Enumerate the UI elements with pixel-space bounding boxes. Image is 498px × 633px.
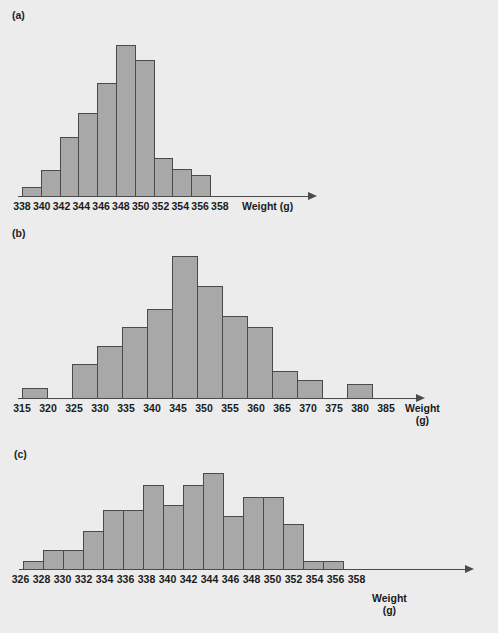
bar-a-348-350: [116, 45, 136, 196]
bar-b-365-370: [272, 371, 298, 398]
panel-c-axis-title-line1: Weight: [372, 592, 407, 604]
tick-c-338: 338: [136, 573, 157, 585]
bar-b-345-350: [172, 256, 198, 398]
tick-b-315: 315: [9, 402, 35, 414]
tick-a-356: 356: [190, 200, 210, 212]
bar-b-350-355: [197, 286, 223, 398]
bar-c-332-334: [83, 531, 104, 569]
tick-a-348: 348: [111, 200, 131, 212]
tick-c-346: 346: [220, 573, 241, 585]
tick-b-345: 345: [165, 402, 191, 414]
bar-b-340-345: [147, 309, 173, 398]
panel-c-axis-line: [19, 569, 467, 570]
tick-c-328: 328: [31, 573, 52, 585]
panel-b-axis-title-line2: (g): [405, 414, 440, 426]
tick-c-354: 354: [304, 573, 325, 585]
tick-b-330: 330: [87, 402, 113, 414]
tick-c-352: 352: [283, 573, 304, 585]
bar-c-338-340: [143, 485, 164, 569]
bar-c-356-358: [323, 561, 344, 569]
bar-c-340-342: [163, 505, 184, 569]
tick-a-338: 338: [12, 200, 32, 212]
panel-c: (c) 326328330332334336338340342344346348…: [0, 440, 498, 633]
bar-c-326-328: [23, 561, 44, 569]
bar-a-352-354: [154, 158, 174, 196]
panel-c-tick-labels: 3263283303323343363383403423443463483503…: [10, 573, 367, 585]
panel-b-axis-title: Weight (g): [405, 402, 440, 426]
panel-b-label: (b): [12, 227, 25, 239]
tick-c-344: 344: [199, 573, 220, 585]
tick-a-352: 352: [151, 200, 171, 212]
tick-b-355: 355: [217, 402, 243, 414]
panel-b-axis-title-line1: Weight: [405, 402, 440, 414]
tick-b-360: 360: [243, 402, 269, 414]
bar-c-336-338: [123, 510, 144, 569]
bar-b-370-375: [297, 380, 323, 398]
tick-c-326: 326: [10, 573, 31, 585]
bar-c-348-350: [243, 497, 264, 569]
tick-b-340: 340: [139, 402, 165, 414]
tick-c-340: 340: [157, 573, 178, 585]
tick-b-380: 380: [347, 402, 373, 414]
panel-a-tick-labels: 338340342344346348350352354356358: [12, 200, 230, 212]
bar-b-325-330: [72, 364, 98, 398]
bar-c-330-332: [63, 550, 84, 569]
tick-b-365: 365: [269, 402, 295, 414]
tick-c-348: 348: [241, 573, 262, 585]
tick-c-356: 356: [325, 573, 346, 585]
tick-c-342: 342: [178, 573, 199, 585]
panel-b: (b) 315320325330335340345350355360365370…: [0, 222, 498, 440]
panel-a-axis-arrow: [308, 192, 317, 200]
panel-c-axis-title: Weight (g): [372, 592, 407, 616]
bar-a-356-358: [191, 175, 211, 196]
panel-a: (a) 338340342344346348350352354356358 We…: [0, 0, 498, 222]
panel-a-axis-title-line1: Weight (g): [242, 200, 293, 212]
panel-b-bars: [22, 242, 386, 398]
tick-a-350: 350: [131, 200, 151, 212]
tick-c-350: 350: [262, 573, 283, 585]
tick-c-334: 334: [94, 573, 115, 585]
tick-a-354: 354: [170, 200, 190, 212]
tick-a-342: 342: [52, 200, 72, 212]
tick-a-346: 346: [91, 200, 111, 212]
bar-b-355-360: [222, 316, 248, 398]
panel-b-tick-labels: 3153203253303353403453503553603653703753…: [9, 402, 399, 414]
tick-a-340: 340: [32, 200, 52, 212]
bar-a-342-344: [60, 137, 80, 196]
bar-a-338-340: [22, 187, 42, 196]
bar-c-328-330: [43, 550, 64, 569]
bar-c-346-348: [223, 516, 244, 569]
bar-b-360-365: [247, 327, 273, 398]
tick-c-358: 358: [346, 573, 367, 585]
panel-a-axis-line: [18, 196, 310, 197]
panel-c-bars: [23, 463, 359, 569]
panel-c-axis-arrow: [465, 565, 474, 573]
tick-a-344: 344: [71, 200, 91, 212]
bar-b-335-340: [122, 327, 148, 398]
bar-a-354-356: [172, 169, 192, 196]
tick-b-350: 350: [191, 402, 217, 414]
tick-b-385: 385: [373, 402, 399, 414]
bar-c-334-336: [103, 510, 124, 569]
panel-a-label: (a): [12, 9, 25, 21]
bar-b-315-320: [22, 388, 48, 398]
panel-c-label: (c): [14, 448, 27, 460]
tick-b-335: 335: [113, 402, 139, 414]
panel-a-bars: [22, 30, 220, 196]
bar-a-350-352: [135, 60, 155, 196]
tick-c-330: 330: [52, 573, 73, 585]
bar-a-344-346: [78, 113, 98, 196]
panel-b-axis-arrow: [416, 394, 425, 402]
panel-b-axis-line: [18, 398, 418, 399]
bar-b-330-335: [97, 346, 123, 398]
tick-c-336: 336: [115, 573, 136, 585]
tick-a-358: 358: [210, 200, 230, 212]
histogram-figure: { "figure": { "background_color": "#ecec…: [0, 0, 498, 633]
bar-b-380-385: [347, 384, 373, 398]
tick-b-320: 320: [35, 402, 61, 414]
panel-c-axis-title-line2: (g): [372, 604, 407, 616]
tick-b-375: 375: [321, 402, 347, 414]
bar-c-354-356: [303, 561, 324, 569]
bar-c-350-352: [263, 497, 284, 569]
tick-b-325: 325: [61, 402, 87, 414]
